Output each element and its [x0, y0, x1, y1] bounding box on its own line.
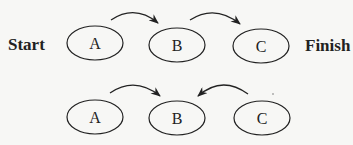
- row1-arrow-b-to-c: [190, 13, 240, 24]
- row2-node-c: C: [234, 101, 290, 135]
- row1-arrow-a-to-b: [111, 13, 158, 23]
- row1-node-b-label: B: [172, 37, 183, 54]
- row2-node-c-label: C: [257, 110, 268, 127]
- diagram-svg: Start A B C Finish A B C: [0, 0, 353, 145]
- row1-node-a: A: [67, 26, 123, 60]
- stray-dot: [272, 93, 274, 95]
- row1-node-c-label: C: [256, 38, 267, 55]
- start-label: Start: [8, 35, 45, 54]
- row1-node-b: B: [149, 28, 205, 62]
- row2-node-b-label: B: [172, 110, 183, 127]
- row1-node-c: C: [233, 29, 289, 63]
- row2-node-a: A: [67, 100, 123, 134]
- row2-node-b: B: [149, 101, 205, 135]
- row2-arrow-c-to-b: [198, 85, 248, 96]
- finish-label: Finish: [305, 36, 351, 55]
- diagram-canvas: Start A B C Finish A B C: [0, 0, 353, 145]
- row2-node-a-label: A: [89, 109, 101, 126]
- row1-node-a-label: A: [89, 35, 101, 52]
- row2-arrow-a-to-b: [110, 85, 160, 96]
